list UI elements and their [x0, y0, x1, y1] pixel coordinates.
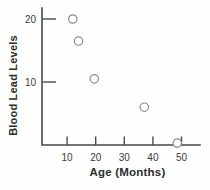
y-tick-label: 10 [25, 77, 37, 88]
y-axis-label: Blood Lead Levels [7, 31, 20, 141]
data-point [173, 139, 181, 147]
axis-lines [42, 8, 200, 145]
data-point [90, 75, 98, 83]
y-tick-label: 20 [25, 14, 37, 25]
x-tick-label: 20 [90, 152, 102, 163]
x-tick-label: 10 [62, 152, 74, 163]
data-point [69, 15, 77, 23]
plot-svg: 10203040501020 [0, 0, 210, 190]
x-tick-label: 40 [147, 152, 159, 163]
x-tick-label: 50 [176, 152, 188, 163]
x-axis-label: Age (Months) [60, 166, 195, 180]
x-tick-label: 30 [119, 152, 131, 163]
scatter-plot-figure: 10203040501020 Blood Lead Levels Age (Mo… [0, 0, 210, 190]
data-point [74, 37, 82, 45]
data-point [140, 103, 148, 111]
